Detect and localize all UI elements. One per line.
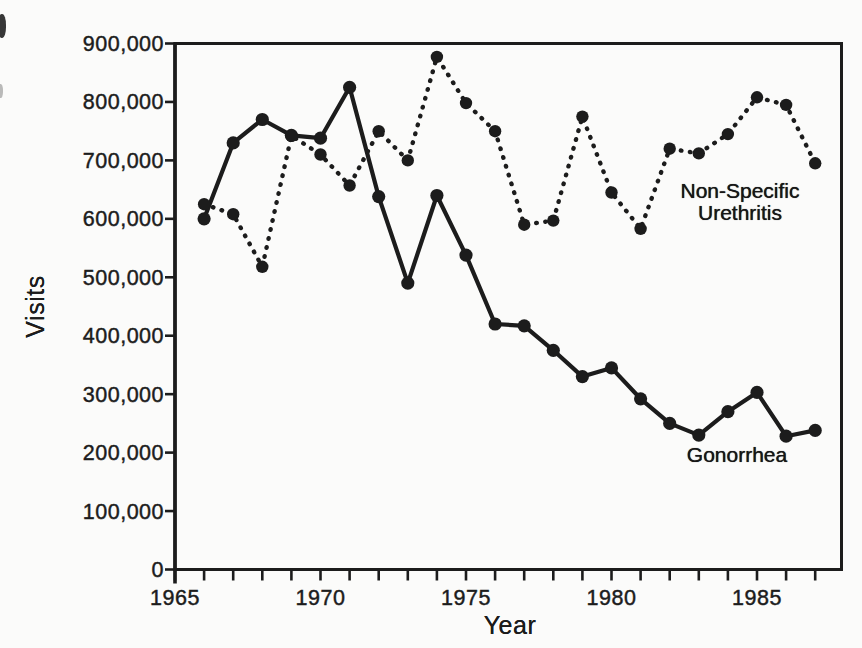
y-axis-title: Visits: [21, 227, 50, 387]
series-label-line: Urethritis: [640, 202, 840, 224]
x-tick-label: 1980: [587, 586, 637, 610]
series-label-non-specific-urethritis: Non-Specific Urethritis: [640, 180, 840, 224]
series-non-specific-urethritis: [198, 51, 822, 273]
gonorrhea-data-point: [198, 212, 211, 225]
non-specific-urethritis-data-point: [489, 125, 501, 137]
non-specific-urethritis-data-point: [518, 219, 530, 231]
y-tick-label: 400,000: [83, 324, 164, 348]
gonorrhea-data-point: [314, 132, 327, 145]
series-label-line: Non-Specific: [640, 180, 840, 202]
non-specific-urethritis-data-point: [460, 97, 472, 109]
non-specific-urethritis-data-point: [693, 147, 705, 159]
chart-canvas: 0100,000200,000300,000400,000500,000600,…: [0, 0, 862, 648]
non-specific-urethritis-data-point: [314, 148, 326, 160]
non-specific-urethritis-data-point: [431, 51, 443, 63]
x-axis-ticks: 19651970197519801985: [150, 570, 815, 611]
x-tick-label: 1965: [150, 586, 200, 610]
x-axis-title: Year: [430, 611, 590, 640]
gonorrhea-data-point: [809, 424, 822, 437]
gonorrhea-data-point: [780, 430, 793, 443]
gonorrhea-data-point: [401, 277, 414, 290]
y-tick-label: 100,000: [83, 500, 164, 524]
non-specific-urethritis-data-point: [576, 110, 588, 122]
y-tick-label: 600,000: [83, 207, 164, 231]
y-tick-label: 900,000: [83, 32, 164, 56]
x-tick-label: 1970: [296, 586, 346, 610]
non-specific-urethritis-data-point: [664, 143, 676, 155]
non-specific-urethritis-data-point: [547, 214, 559, 226]
gonorrhea-data-point: [576, 370, 589, 383]
y-tick-label: 200,000: [83, 441, 164, 465]
x-tick-label: 1985: [732, 586, 782, 610]
y-tick-label: 0: [152, 558, 164, 582]
non-specific-urethritis-data-point: [373, 125, 385, 137]
series-label-gonorrhea: Gonorrhea: [637, 444, 837, 466]
gonorrhea-data-point: [256, 113, 269, 126]
gonorrhea-data-point: [547, 344, 560, 357]
x-tick-label: 1975: [441, 586, 491, 610]
gonorrhea-data-point: [343, 81, 356, 94]
non-specific-urethritis-data-point: [605, 186, 617, 198]
non-specific-urethritis-data-point: [402, 154, 414, 166]
non-specific-urethritis-data-point: [751, 91, 763, 103]
series-label-line: Gonorrhea: [637, 444, 837, 466]
y-axis-ticks: 0100,000200,000300,000400,000500,000600,…: [83, 32, 175, 582]
non-specific-urethritis-data-point: [343, 179, 355, 191]
gonorrhea-data-point: [605, 361, 618, 374]
gonorrhea-data-point: [459, 249, 472, 262]
gonorrhea-data-point: [430, 189, 443, 202]
gonorrhea-data-point: [227, 136, 240, 149]
non-specific-urethritis-data-point: [634, 223, 646, 235]
non-specific-urethritis-data-point: [198, 198, 210, 210]
non-specific-urethritis-data-point: [285, 130, 297, 142]
gonorrhea-data-point: [489, 317, 502, 330]
non-specific-urethritis-data-point: [256, 261, 268, 273]
y-tick-label: 800,000: [83, 90, 164, 114]
non-specific-urethritis-data-point: [780, 99, 792, 111]
gonorrhea-data-point: [721, 405, 734, 418]
gonorrhea-data-point: [372, 190, 385, 203]
gonorrhea-data-point: [518, 319, 531, 332]
non-specific-urethritis-data-point: [809, 157, 821, 169]
gonorrhea-data-point: [634, 392, 647, 405]
gonorrhea-data-point: [750, 386, 763, 399]
gonorrhea-data-point: [692, 429, 705, 442]
y-tick-label: 500,000: [83, 266, 164, 290]
non-specific-urethritis-line: [204, 57, 815, 267]
gonorrhea-data-point: [663, 417, 676, 430]
chart-figure: 0100,000200,000300,000400,000500,000600,…: [0, 0, 862, 648]
non-specific-urethritis-data-point: [227, 208, 239, 220]
plot-frame: [175, 43, 842, 584]
y-tick-label: 700,000: [83, 149, 164, 173]
y-tick-label: 300,000: [83, 383, 164, 407]
non-specific-urethritis-data-point: [722, 128, 734, 140]
